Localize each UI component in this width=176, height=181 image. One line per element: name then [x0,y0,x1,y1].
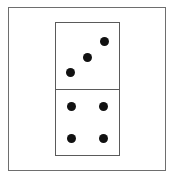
domino-top-half [56,23,119,89]
domino-bottom-half [56,89,119,156]
pip [99,134,108,143]
pip [67,134,76,143]
pip [83,53,92,62]
pip [67,102,76,111]
pip [66,68,75,77]
domino-tile [55,22,120,156]
pip [100,37,109,46]
pip [99,102,108,111]
